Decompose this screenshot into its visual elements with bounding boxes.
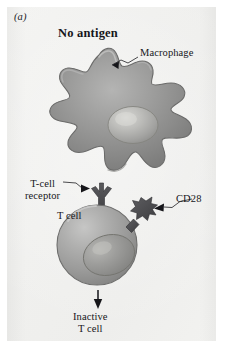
cd28-glyph	[126, 197, 158, 233]
macrophage-nucleus	[108, 107, 158, 144]
label-inactive-t-cell-line2: T cell	[78, 323, 103, 334]
label-macrophage: Macrophage	[140, 48, 193, 59]
panel-letter: (a)	[14, 12, 27, 23]
label-inactive-t-cell-line1: Inactive	[73, 311, 108, 322]
figure-panel-a: (a) No antigen Macrophage T-cellreceptor…	[0, 0, 225, 349]
t-cell	[57, 183, 158, 285]
label-t-cell-receptor-line2: receptor	[25, 190, 60, 201]
label-inactive-t-cell: InactiveT cell	[73, 311, 108, 336]
outcome-arrow	[94, 290, 102, 309]
label-t-cell-receptor-line1: T-cell	[30, 178, 55, 189]
panel-title: No antigen	[0, 27, 176, 40]
macrophage-cell	[50, 48, 192, 171]
label-cd28: CD28	[176, 194, 202, 205]
label-t-cell: T cell	[57, 211, 82, 222]
macrophage-nucleolus-highlight	[115, 112, 137, 126]
t-cell-receptor-leader-line	[63, 182, 90, 193]
label-t-cell-receptor: T-cellreceptor	[25, 178, 60, 202]
